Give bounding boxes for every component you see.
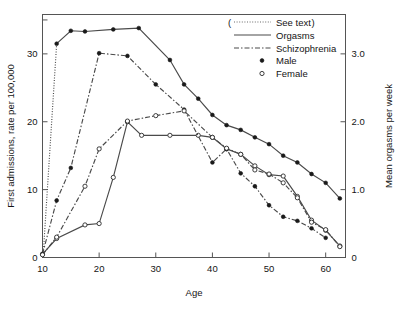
data-point-filled <box>97 51 101 55</box>
data-point-open <box>281 174 285 178</box>
data-point-open <box>253 168 257 172</box>
y-right-tick-label: 3.0 <box>352 48 365 59</box>
data-point-filled <box>338 197 342 201</box>
chart-canvas: 0102030 01.02.03.0 102030405060 Age Firs… <box>0 0 406 311</box>
data-point-open <box>295 196 299 200</box>
data-point-open <box>253 164 257 168</box>
data-point-filled <box>295 219 299 223</box>
data-point-open <box>281 181 285 185</box>
data-point-open <box>267 172 271 176</box>
data-point-open <box>111 175 115 179</box>
data-point-filled <box>267 203 271 207</box>
data-point-open <box>309 220 313 224</box>
y-axis-right-title: Mean orgasms per week <box>383 84 394 188</box>
x-tick-label: 60 <box>320 263 331 274</box>
data-point-open <box>140 133 144 137</box>
data-point-open <box>97 147 101 151</box>
data-point-filled <box>126 54 130 58</box>
data-point-filled <box>196 97 200 101</box>
data-point-open <box>40 253 44 257</box>
data-point-filled <box>310 172 314 176</box>
legend-label-male: Male <box>276 55 297 66</box>
data-point-filled <box>324 181 328 185</box>
data-point-open <box>182 109 186 113</box>
chart-figure: 0102030 01.02.03.0 102030405060 Age Firs… <box>0 0 406 311</box>
data-point-filled <box>55 199 59 203</box>
data-point-filled <box>168 58 172 62</box>
data-point-open <box>210 135 214 139</box>
data-point-open <box>154 114 158 118</box>
data-point-filled <box>69 29 73 33</box>
data-point-filled <box>225 123 229 127</box>
data-point-filled <box>295 161 299 165</box>
x-tick-label: 50 <box>264 263 275 274</box>
y-left-tick-label: 10 <box>27 184 38 195</box>
data-point-filled <box>55 42 59 46</box>
data-point-filled <box>324 236 328 240</box>
data-point-filled <box>182 83 186 87</box>
data-point-filled <box>281 215 285 219</box>
data-point-open <box>224 146 228 150</box>
legend-label-female: Female <box>276 68 308 79</box>
x-tick-label: 20 <box>94 263 105 274</box>
x-tick-label: 10 <box>37 263 48 274</box>
data-point-filled <box>239 171 243 175</box>
data-point-filled <box>211 161 215 165</box>
legend-label-see-text: See text <box>276 17 311 28</box>
data-point-filled <box>253 135 257 139</box>
y-left-tick-label: 30 <box>27 48 38 59</box>
data-point-open <box>97 221 101 225</box>
data-point-open <box>55 235 59 239</box>
data-point-filled <box>211 113 215 117</box>
data-point-filled <box>253 184 257 188</box>
data-point-open <box>338 245 342 249</box>
y-right-tick-label: 1.0 <box>352 184 365 195</box>
data-point-open <box>83 184 87 188</box>
x-axis-title: Age <box>186 287 203 298</box>
data-point-filled <box>267 142 271 146</box>
data-point-open <box>83 223 87 227</box>
data-point-open <box>168 133 172 137</box>
legend-label-orgasms: Orgasms <box>276 30 315 41</box>
data-point-filled <box>83 30 87 34</box>
data-point-open <box>239 152 243 156</box>
data-point-filled <box>69 166 73 170</box>
legend-paren-close: ) <box>311 17 314 28</box>
x-tick-label: 40 <box>207 263 218 274</box>
y-right-tick-label: 0 <box>352 252 357 263</box>
data-point-filled <box>111 28 115 32</box>
data-point-filled <box>310 226 314 230</box>
y-left-tick-label: 20 <box>27 116 38 127</box>
y-right-tick-label: 2.0 <box>352 116 365 127</box>
data-point-open <box>324 228 328 232</box>
y-left-tick-label: 0 <box>32 252 37 263</box>
legend-swatch-male <box>260 59 264 63</box>
data-point-open <box>125 119 129 123</box>
data-point-filled <box>239 128 243 132</box>
legend-swatch-female <box>260 71 264 75</box>
data-point-filled <box>281 154 285 158</box>
legend-label-schizophrenia: Schizophrenia <box>276 43 337 54</box>
data-point-filled <box>137 26 141 30</box>
y-axis-left-title: First admissions, rate per 100,000 <box>5 64 16 208</box>
x-tick-label: 30 <box>150 263 161 274</box>
data-point-filled <box>154 83 158 87</box>
